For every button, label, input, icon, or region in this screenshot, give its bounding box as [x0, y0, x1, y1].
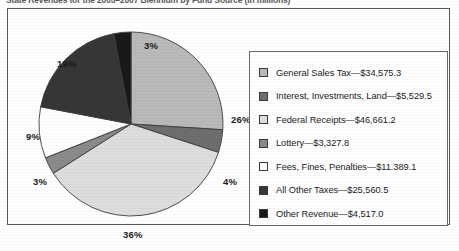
legend-item-label: Lottery—$3,327.8: [276, 138, 349, 148]
pie-percent-label: 26%: [231, 114, 251, 125]
legend-item: Lottery—$3,327.8: [259, 132, 447, 156]
legend-item: Interest, Investments, Land—$5,529.5: [259, 85, 447, 109]
legend-swatch-icon: [259, 139, 268, 148]
pie-percent-label: 3%: [144, 40, 158, 51]
chart-frame: 26% 4% 36% 3% 9% 19% 3% General Sales Ta…: [7, 8, 450, 225]
chart-title: State Revenues for the 2005–2007 Bienniu…: [6, 0, 426, 7]
legend-swatch-icon: [259, 92, 268, 101]
legend-item: All Other Taxes—$25,560.5: [259, 179, 447, 203]
pie-percent-label: 3%: [33, 176, 47, 187]
legend-swatch-icon: [259, 209, 268, 218]
pie-percent-label: 19%: [57, 58, 77, 69]
legend-item: General Sales Tax—$34,575.3: [259, 61, 447, 85]
pie-percent-label: 4%: [223, 176, 237, 187]
legend-item-label: All Other Taxes—$25,560.5: [276, 185, 388, 195]
pie-chart: 26% 4% 36% 3% 9% 19% 3%: [18, 21, 246, 227]
legend-item: Fees, Fines, Penalties—$11.389.1: [259, 155, 447, 179]
legend-item-label: Fees, Fines, Penalties—$11.389.1: [276, 162, 416, 172]
legend-item-label: Other Revenue—$4,517.0: [276, 209, 383, 219]
legend-item: Federal Receipts—$46,661.2: [259, 108, 447, 132]
pie-percent-label: 36%: [123, 229, 143, 240]
chart-legend: General Sales Tax—$34,575.3 Interest, In…: [249, 51, 448, 226]
pie-percent-label: 9%: [26, 131, 40, 142]
legend-item-label: General Sales Tax—$34,575.3: [276, 68, 401, 78]
legend-swatch-icon: [259, 162, 268, 171]
legend-swatch-icon: [259, 186, 268, 195]
legend-swatch-icon: [259, 115, 268, 124]
pie-svg: [18, 21, 246, 227]
legend-item-label: Federal Receipts—$46,661.2: [276, 115, 396, 125]
legend-item-label: Interest, Investments, Land—$5,529.5: [276, 91, 432, 101]
legend-swatch-icon: [259, 68, 268, 77]
legend-item: Other Revenue—$4,517.0: [259, 202, 447, 226]
